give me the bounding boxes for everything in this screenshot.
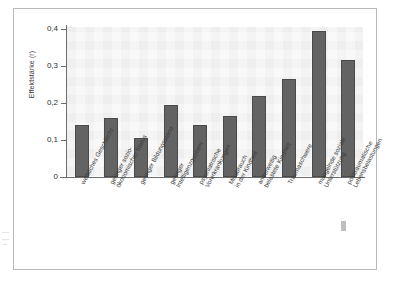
figure-frame: Effektstärke (r) 00,10,20,30,4 weibliche…: [13, 8, 377, 270]
y-axis-tick-mark: [61, 103, 66, 104]
y-axis-tick-mark: [61, 177, 66, 178]
y-axis-tick-label: 0: [38, 173, 58, 181]
y-axis-tick-label: 0,3: [38, 62, 58, 70]
y-axis-title: Effektstärke (r): [28, 25, 35, 125]
bar-chart: Effektstärke (r) 00,10,20,30,4 weibliche…: [14, 9, 378, 271]
scan-artifact: [341, 221, 346, 231]
y-axis-tick-mark: [61, 66, 66, 67]
y-axis-tick-mark: [61, 29, 66, 30]
scan-artifact: [2, 232, 9, 233]
y-axis-tick-label: 0,1: [38, 136, 58, 144]
y-axis-tick-mark: [61, 140, 66, 141]
scan-artifact: [3, 244, 7, 245]
scan-artifact: [2, 239, 9, 240]
y-axis-tick-label: 0,4: [38, 25, 58, 33]
y-axis-tick-label: 0,2: [38, 99, 58, 107]
y-axis-line: [66, 25, 67, 178]
bar: [312, 31, 326, 177]
bar: [282, 79, 296, 177]
